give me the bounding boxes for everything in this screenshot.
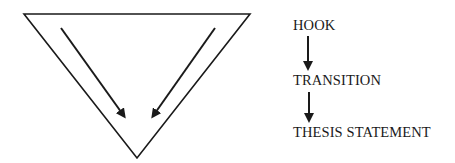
step-label-transition: TRANSITION — [293, 73, 381, 88]
right-funnel-arrow — [153, 28, 215, 116]
funnel-triangle — [24, 14, 250, 158]
step-label-hook: HOOK — [293, 18, 335, 33]
step-label-thesis-statement: THESIS STATEMENT — [293, 125, 431, 140]
